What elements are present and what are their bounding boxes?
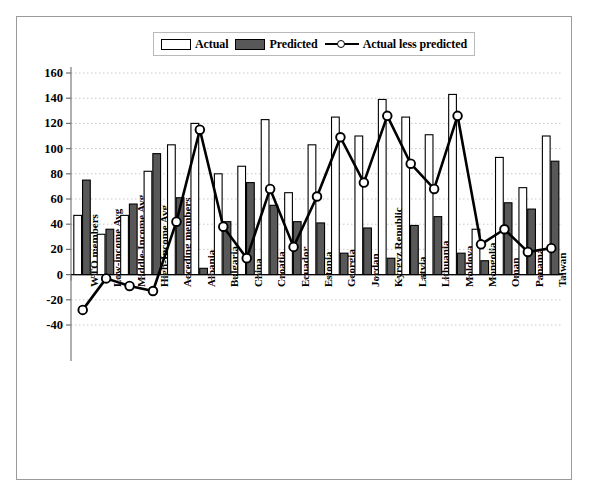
- line-marker[interactable]: [266, 185, 275, 194]
- bar-predicted[interactable]: [504, 203, 512, 275]
- line-marker[interactable]: [242, 254, 251, 263]
- line-marker[interactable]: [125, 282, 134, 291]
- bar-predicted[interactable]: [481, 261, 489, 275]
- bar-actual[interactable]: [144, 171, 152, 274]
- line-marker[interactable]: [453, 112, 462, 121]
- bar-actual[interactable]: [496, 157, 504, 274]
- line-marker[interactable]: [360, 178, 369, 187]
- bar-predicted[interactable]: [387, 258, 395, 274]
- bar-actual[interactable]: [355, 136, 363, 275]
- line-marker[interactable]: [430, 185, 439, 194]
- line-marker[interactable]: [172, 217, 181, 226]
- line-marker[interactable]: [102, 274, 111, 283]
- bar-predicted[interactable]: [270, 205, 278, 274]
- bar-predicted[interactable]: [528, 209, 536, 275]
- line-marker[interactable]: [477, 240, 486, 249]
- line-marker[interactable]: [500, 225, 509, 234]
- bar-predicted[interactable]: [551, 161, 559, 274]
- bar-predicted[interactable]: [153, 154, 161, 275]
- bar-predicted[interactable]: [106, 229, 114, 274]
- line-marker[interactable]: [219, 222, 228, 231]
- bar-actual[interactable]: [425, 135, 433, 275]
- chart-canvas: Actual Predicted Actual less predicted 1…: [17, 17, 573, 481]
- bar-predicted[interactable]: [434, 217, 442, 275]
- line-marker[interactable]: [383, 112, 392, 121]
- bar-predicted[interactable]: [200, 268, 208, 274]
- bar-predicted[interactable]: [129, 204, 137, 275]
- line-marker[interactable]: [78, 306, 87, 315]
- bar-actual[interactable]: [542, 136, 550, 275]
- line-marker[interactable]: [149, 287, 158, 296]
- bar-actual[interactable]: [168, 145, 176, 275]
- plot-area: [17, 17, 573, 481]
- line-marker[interactable]: [289, 243, 298, 252]
- figure-frame: Actual Predicted Actual less predicted 1…: [16, 16, 572, 480]
- line-marker[interactable]: [547, 244, 556, 253]
- bar-actual[interactable]: [74, 215, 82, 274]
- line-marker[interactable]: [524, 248, 533, 257]
- bar-actual[interactable]: [97, 234, 105, 274]
- bar-actual[interactable]: [519, 188, 527, 275]
- line-marker[interactable]: [196, 125, 205, 134]
- bar-actual[interactable]: [402, 117, 410, 275]
- line-marker[interactable]: [406, 159, 415, 168]
- line-marker[interactable]: [336, 133, 345, 142]
- bar-actual[interactable]: [121, 215, 129, 274]
- bar-predicted[interactable]: [83, 180, 91, 275]
- line-marker[interactable]: [313, 192, 322, 201]
- bar-predicted[interactable]: [364, 228, 372, 275]
- bar-predicted[interactable]: [340, 253, 348, 274]
- bar-predicted[interactable]: [317, 223, 325, 275]
- bar-predicted[interactable]: [457, 253, 465, 274]
- bar-predicted[interactable]: [411, 225, 419, 274]
